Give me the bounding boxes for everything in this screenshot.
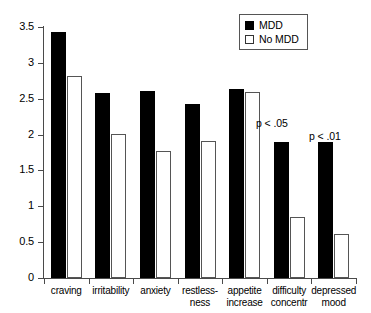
legend-item-no-mdd: No MDD (245, 32, 299, 46)
bar-no-mdd (67, 76, 82, 278)
chart-legend: MDD No MDD (239, 14, 308, 50)
bar-no-mdd (156, 151, 171, 278)
legend-label-mdd: MDD (259, 20, 283, 31)
bar-mdd (140, 91, 155, 278)
y-tick-label: 0.5 (0, 236, 34, 247)
y-tick-label: 2 (0, 129, 34, 140)
legend-item-mdd: MDD (245, 18, 299, 32)
bar-no-mdd (111, 134, 126, 278)
y-tick-label: 0 (0, 272, 34, 283)
bar-chart: 00.511.522.533.5 cravingirritabilityanxi… (0, 0, 371, 313)
p-value-annotation: p < .05 (256, 118, 288, 129)
p-value-annotation: p < .01 (309, 131, 341, 142)
x-category-label-line: depressed (306, 285, 362, 297)
bar-no-mdd (201, 141, 216, 278)
x-tick-mark (356, 279, 357, 284)
x-tick-mark (222, 279, 223, 284)
x-category-label-line: mood (306, 297, 362, 309)
plot-area (44, 27, 356, 278)
bar-no-mdd (290, 217, 305, 278)
y-tick-mark (38, 99, 43, 100)
x-tick-mark (267, 279, 268, 284)
x-tick-mark (178, 279, 179, 284)
y-tick-mark (38, 278, 43, 279)
bar-mdd (229, 89, 244, 278)
bar-no-mdd (334, 234, 349, 278)
legend-label-no-mdd: No MDD (259, 34, 299, 45)
y-tick-mark (38, 135, 43, 136)
bar-mdd (51, 32, 66, 278)
x-tick-mark (89, 279, 90, 284)
x-tick-mark (311, 279, 312, 284)
y-tick-mark (38, 242, 43, 243)
bar-mdd (95, 93, 110, 278)
y-tick-mark (38, 27, 43, 28)
y-tick-label: 1 (0, 200, 34, 211)
y-tick-label: 2.5 (0, 93, 34, 104)
x-category-label: depressedmood (306, 285, 362, 308)
y-tick-mark (38, 63, 43, 64)
legend-swatch-filled-icon (245, 21, 254, 30)
y-tick-mark (38, 206, 43, 207)
bar-mdd (318, 142, 333, 278)
x-tick-mark (44, 279, 45, 284)
y-tick-label: 3 (0, 57, 34, 68)
bar-mdd (185, 104, 200, 278)
y-tick-label: 1.5 (0, 164, 34, 175)
x-tick-mark (133, 279, 134, 284)
bar-mdd (274, 142, 289, 278)
x-axis-line (43, 278, 357, 279)
y-tick-mark (38, 170, 43, 171)
y-tick-label: 3.5 (0, 21, 34, 32)
legend-swatch-open-icon (245, 35, 254, 44)
